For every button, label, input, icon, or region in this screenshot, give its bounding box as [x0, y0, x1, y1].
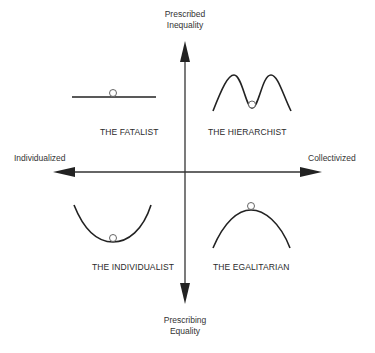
- quadrant-label-individualist: THE INDIVIDUALIST: [92, 262, 174, 272]
- axis-label-right: Collectivized: [308, 153, 356, 164]
- diagram-canvas: [0, 0, 375, 353]
- ball-icon: [110, 235, 117, 242]
- egalitarian-curve: [213, 203, 290, 249]
- axis-label-top-line2: Inequality: [145, 20, 225, 31]
- horizontal-axis: [53, 167, 322, 177]
- ball-icon: [249, 101, 256, 108]
- axis-label-bottom: Prescribing Equality: [145, 315, 225, 337]
- ball-icon: [110, 90, 117, 97]
- hierarchist-curve: [213, 75, 291, 111]
- ball-icon: [248, 203, 255, 210]
- arrow-right-icon: [300, 167, 322, 177]
- arrow-left-icon: [53, 167, 75, 177]
- arrow-up-icon: [180, 41, 190, 62]
- quadrant-label-hierarchist: THE HIERARCHIST: [208, 127, 286, 137]
- axis-label-top: Prescribed Inequality: [145, 9, 225, 31]
- arrow-down-icon: [180, 283, 190, 304]
- quadrant-label-egalitarian: THE EGALITARIAN: [213, 262, 289, 272]
- individualist-curve: [74, 205, 151, 242]
- quadrant-label-fatalist: THE FATALIST: [100, 127, 159, 137]
- axis-label-top-line1: Prescribed: [145, 9, 225, 20]
- axis-label-bottom-line2: Equality: [145, 326, 225, 337]
- axis-label-left: Individualized: [14, 153, 66, 164]
- fatalist-curve: [72, 90, 156, 98]
- axis-label-bottom-line1: Prescribing: [145, 315, 225, 326]
